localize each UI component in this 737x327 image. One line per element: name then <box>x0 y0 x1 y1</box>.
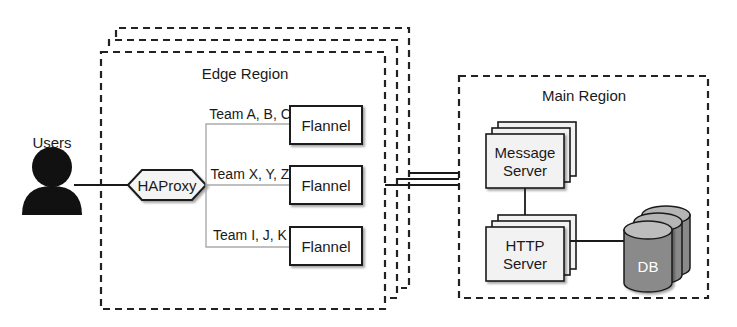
user-silhouette-icon <box>22 147 82 215</box>
team-label-xyz: Team X, Y, Z <box>211 166 290 182</box>
flannel-label-1: Flannel <box>301 117 350 134</box>
main-region-title: Main Region <box>542 87 626 104</box>
message-server-node: Message Server <box>486 122 576 188</box>
message-server-line2: Server <box>503 162 547 179</box>
http-server-node: HTTP Server <box>486 215 576 281</box>
edge-region-title: Edge Region <box>202 65 289 82</box>
db-label: DB <box>638 258 659 275</box>
haproxy-label: HAProxy <box>137 177 197 194</box>
http-server-line1: HTTP <box>505 237 544 254</box>
message-server-line1: Message <box>495 144 556 161</box>
flannel-label-3: Flannel <box>301 238 350 255</box>
flannel-label-2: Flannel <box>301 177 350 194</box>
http-server-line2: Server <box>503 255 547 272</box>
architecture-diagram: Edge Region Main Region Users HAProxy Te… <box>0 0 737 327</box>
db-node: DB <box>624 206 690 292</box>
users-node: Users <box>22 134 82 215</box>
team-label-ijk: Team I, J, K <box>213 227 288 243</box>
team-label-abc: Team A, B, C <box>209 106 291 122</box>
